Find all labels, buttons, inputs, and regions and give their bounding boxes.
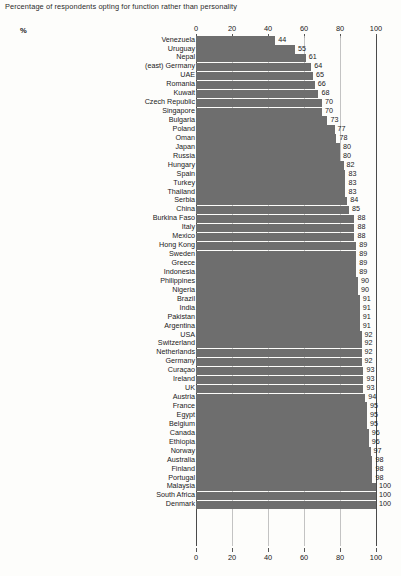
bar-value-label: 98: [375, 456, 383, 465]
bar: [196, 206, 349, 215]
x-axis-bottom-tick-label: 0: [194, 553, 198, 562]
bar: [196, 81, 315, 90]
chart-title: Percentage of respondents opting for fun…: [5, 2, 237, 11]
x-axis-top: 020406080100: [0, 24, 401, 36]
bar: [196, 322, 360, 331]
x-axis-bottom-tick-mark: [376, 548, 377, 552]
bar-row: Sweden89: [0, 251, 401, 260]
bar: [196, 304, 360, 313]
bar-row: Japan80: [0, 143, 401, 152]
bar: [196, 367, 363, 376]
bar: [196, 134, 336, 143]
bar: [196, 331, 362, 340]
bar: [196, 54, 306, 63]
bar: [196, 72, 313, 81]
bar: [196, 474, 372, 483]
bar-row: Belgium95: [0, 420, 401, 429]
bar: [196, 394, 365, 403]
bar-value-label: 91: [363, 322, 371, 331]
bar-row: USA92: [0, 331, 401, 340]
bar: [196, 286, 358, 295]
bar: [196, 429, 369, 438]
bar-value-label: 55: [298, 45, 306, 54]
x-axis-bottom-tick-mark: [304, 548, 305, 552]
bar: [196, 492, 376, 501]
category-label: Venezuela: [161, 36, 195, 45]
bar-row: Czech Republic70: [0, 99, 401, 108]
bar: [196, 447, 371, 456]
bar-row: Venezuela44: [0, 36, 401, 45]
bar-row: Kuwait68: [0, 90, 401, 99]
bar-row: Egypt95: [0, 411, 401, 420]
bar: [196, 483, 376, 492]
x-axis-bottom-tick-label: 40: [264, 553, 272, 562]
bar: [196, 349, 362, 358]
bar-row: Nigeria90: [0, 286, 401, 295]
bar: [196, 45, 295, 54]
bar: [196, 152, 340, 161]
bar-row: Denmark100: [0, 501, 401, 510]
bar-row: India91: [0, 304, 401, 313]
bar: [196, 108, 322, 117]
category-label: Turkey: [173, 179, 195, 188]
bar-row: Burkina Faso88: [0, 215, 401, 224]
bar: [196, 188, 345, 197]
bar-row: UK93: [0, 385, 401, 394]
category-label: Finland: [171, 465, 195, 474]
bar: [196, 224, 354, 233]
bar: [196, 197, 347, 206]
bar: [196, 161, 344, 170]
bar-value-label: 44: [278, 36, 286, 45]
bar-value-label: 83: [348, 170, 356, 179]
bar-chart: Percentage of respondents opting for fun…: [0, 0, 401, 576]
bar: [196, 277, 358, 286]
bar: [196, 456, 372, 465]
bar: [196, 233, 354, 242]
bar: [196, 179, 345, 188]
plot-area: Venezuela44Uruguay55Nepal61(east) German…: [0, 36, 401, 546]
x-axis-bottom-tick-label: 100: [370, 553, 382, 562]
bar: [196, 313, 360, 322]
bar-row: Netherlands92: [0, 349, 401, 358]
bar-row: Thailand83: [0, 188, 401, 197]
category-label: Argentina: [164, 322, 195, 331]
bar-row: Ireland93: [0, 376, 401, 385]
bar: [196, 63, 311, 72]
bar-row: Hong Kong89: [0, 242, 401, 251]
bar-row: Serbia84: [0, 197, 401, 206]
bar: [196, 501, 376, 510]
bar: [196, 465, 372, 474]
x-axis-bottom-tick-mark: [196, 548, 197, 552]
bar-row: Spain83: [0, 170, 401, 179]
bar: [196, 99, 322, 108]
bar-row: UAE65: [0, 72, 401, 81]
bar-row: Finland98: [0, 465, 401, 474]
bar-row: Germany92: [0, 358, 401, 367]
bar: [196, 251, 356, 260]
bar: [196, 170, 345, 179]
bar-row: Russia80: [0, 152, 401, 161]
bar-row: Curaçao93: [0, 367, 401, 376]
bar-row: Canada96: [0, 429, 401, 438]
x-axis-top-tick-label: 0: [194, 24, 198, 33]
bar-row: Brazil91: [0, 295, 401, 304]
x-axis-top-tick-label: 100: [370, 24, 382, 33]
bar-row: Australia98: [0, 456, 401, 465]
x-axis-bottom-tick-mark: [340, 548, 341, 552]
bar: [196, 215, 354, 224]
bar-row: Italy88: [0, 224, 401, 233]
bar-value-label: 91: [363, 313, 371, 322]
bar-row: Switzerland92: [0, 340, 401, 349]
x-axis-bottom-tick-label: 60: [300, 553, 308, 562]
category-label: Australia: [167, 456, 195, 465]
bar: [196, 259, 356, 268]
bar-row: Singapore70: [0, 108, 401, 117]
bar: [196, 36, 275, 45]
bar-row: Indonesia89: [0, 268, 401, 277]
bar-row: Mexico88: [0, 233, 401, 242]
bar-row: Ethiopia96: [0, 438, 401, 447]
bar: [196, 420, 367, 429]
category-label: Spain: [177, 170, 195, 179]
bar: [196, 402, 367, 411]
bar-row: Pakistan91: [0, 313, 401, 322]
